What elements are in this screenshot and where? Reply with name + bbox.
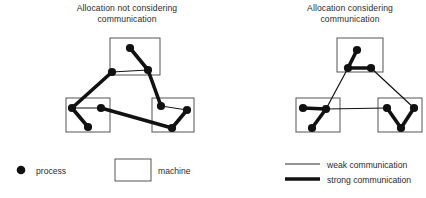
legend-process-icon [17, 166, 26, 175]
process-node [183, 106, 191, 114]
process-node [168, 124, 176, 132]
legend-machine-label: machine [158, 166, 190, 177]
process-node [126, 44, 134, 52]
edge-weak [326, 68, 348, 109]
process-node [353, 46, 361, 54]
edge-weak [371, 68, 414, 108]
legend-weak-label: weak communication [327, 160, 407, 171]
panel-right [296, 38, 422, 132]
process-node [144, 66, 152, 74]
process-node [410, 104, 418, 112]
panel-title-left-line2: communication [52, 14, 202, 25]
edges-right [303, 50, 414, 128]
legend-process-label: process [36, 166, 66, 177]
legend-strong-label: strong communication [327, 175, 411, 186]
edge-strong [101, 108, 172, 128]
panel-title-left: Allocation not considering communication [52, 3, 202, 24]
panel-title-right-line1: Allocation considering [282, 3, 418, 14]
edge-weak [112, 70, 148, 72]
edge-strong [130, 48, 148, 70]
panel-title-left-line1: Allocation not considering [52, 3, 202, 14]
process-node [97, 104, 105, 112]
panel-left [66, 38, 194, 132]
process-node [308, 124, 316, 132]
process-node [157, 102, 165, 110]
process-node [84, 123, 92, 131]
processes-left [68, 44, 191, 132]
legend-machine-icon [115, 159, 151, 181]
panel-title-right: Allocation considering communication [282, 3, 418, 24]
panel-title-right-line2: communication [282, 14, 418, 25]
process-node [383, 104, 391, 112]
process-node [397, 124, 405, 132]
process-node [68, 104, 76, 112]
process-node [299, 104, 307, 112]
process-node [322, 105, 330, 113]
edge-strong [72, 72, 112, 108]
process-node [344, 64, 352, 72]
process-node [367, 64, 375, 72]
process-node [108, 68, 116, 76]
bottom-cropped-text [2, 190, 182, 197]
machine-box [296, 98, 340, 132]
edges-left [72, 48, 187, 128]
